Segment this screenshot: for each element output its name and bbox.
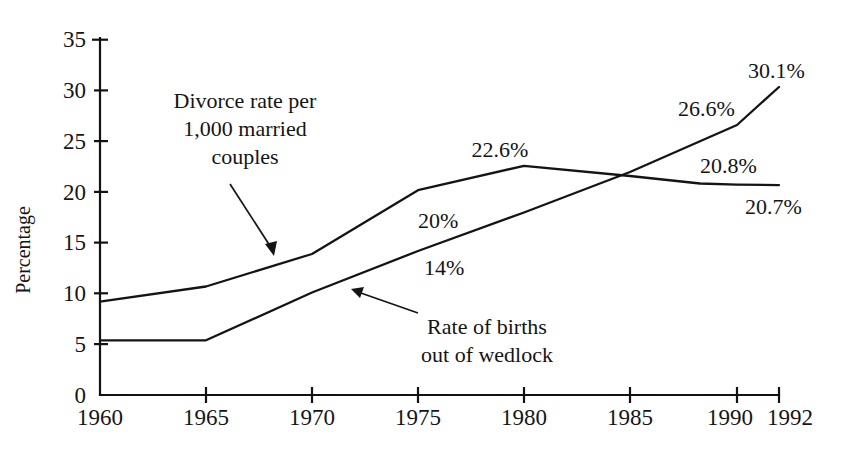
- y-tick-label-15: 15: [63, 230, 86, 255]
- line-chart: 35 30 25 20 15 10 5 0 1960 1965 1970 197…: [0, 0, 843, 469]
- annotation-divorce-line1: Divorce rate per: [174, 88, 318, 113]
- y-tick-label-5: 5: [75, 332, 87, 357]
- annotation-births-out-of-wedlock: Rate of births out of wedlock: [351, 287, 553, 367]
- x-tick-label-1990: 1990: [707, 405, 753, 430]
- x-tick-label-1960: 1960: [77, 405, 123, 430]
- value-label-births-1992: 30.1%: [748, 58, 805, 83]
- y-axis-title: Percentage: [12, 206, 35, 294]
- value-label-births-1990: 26.6%: [678, 96, 735, 121]
- y-tick-label-10: 10: [63, 281, 86, 306]
- value-label-divorce-1992: 20.7%: [745, 194, 802, 219]
- annotation-divorce-line2: 1,000 married: [183, 116, 306, 141]
- y-tick-label-35: 35: [63, 27, 86, 52]
- annotation-births-arrow-line: [358, 292, 418, 313]
- y-tick-label-20: 20: [63, 180, 86, 205]
- value-label-divorce-1980: 22.6%: [472, 137, 529, 162]
- y-tick-label-0: 0: [75, 383, 87, 408]
- x-tick-label-1992: 1992: [767, 405, 813, 430]
- annotation-births-arrow-head-icon: [351, 287, 364, 298]
- series-line-divorce-rate: [100, 166, 779, 302]
- annotation-births-line2: out of wedlock: [421, 342, 553, 367]
- data-value-labels: 20% 22.6% 20.8% 20.7% 14% 26.6% 30.1%: [418, 58, 805, 280]
- y-tick-labels: 35 30 25 20 15 10 5 0: [63, 27, 86, 408]
- x-tick-label-1975: 1975: [395, 405, 441, 430]
- annotation-divorce-arrow-line: [230, 184, 272, 249]
- value-label-divorce-1975: 20%: [418, 208, 458, 233]
- x-tick-label-1985: 1985: [607, 405, 653, 430]
- x-tick-label-1965: 1965: [183, 405, 229, 430]
- annotation-divorce-line3: couples: [211, 144, 278, 169]
- chart-canvas: 35 30 25 20 15 10 5 0 1960 1965 1970 197…: [0, 0, 843, 469]
- y-tick-label-30: 30: [63, 78, 86, 103]
- value-label-births-1975: 14%: [424, 255, 464, 280]
- x-tick-label-1970: 1970: [289, 405, 335, 430]
- annotation-divorce-rate: Divorce rate per 1,000 married couples: [174, 88, 318, 256]
- y-tick-label-25: 25: [63, 129, 86, 154]
- annotation-births-line1: Rate of births: [427, 314, 547, 339]
- value-label-divorce-1990: 20.8%: [700, 153, 757, 178]
- annotation-divorce-arrow-head-icon: [265, 241, 277, 256]
- x-tick-label-1980: 1980: [501, 405, 547, 430]
- x-tick-labels: 1960 1965 1970 1975 1980 1985 1990 1992: [77, 405, 813, 430]
